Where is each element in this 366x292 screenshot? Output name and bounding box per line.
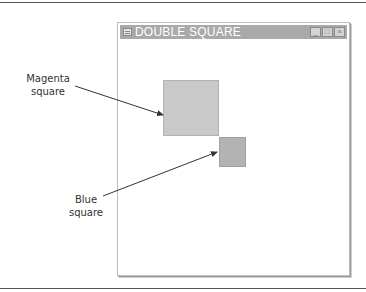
callout-arrows	[0, 0, 366, 292]
magenta-arrow	[75, 86, 163, 115]
bottom-rule	[0, 288, 366, 289]
blue-arrow	[103, 152, 217, 196]
